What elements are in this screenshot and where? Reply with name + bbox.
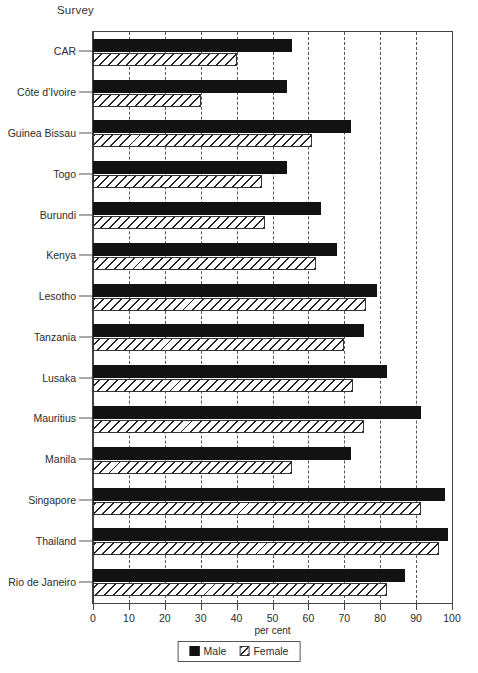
category-tick [79, 214, 92, 215]
category-label: Singapore [28, 494, 76, 506]
category-label: Lusaka [42, 372, 76, 384]
bar-male [93, 39, 292, 52]
x-tick-label: 30 [195, 612, 207, 624]
category-label: CAR [54, 45, 76, 57]
category-tick [79, 500, 92, 501]
bar-male [93, 528, 448, 541]
bar-male [93, 80, 287, 93]
bar-male [93, 406, 421, 419]
x-tick-label: 60 [303, 612, 315, 624]
category-tick [79, 540, 92, 541]
bar-group [93, 521, 452, 562]
bar-group [93, 236, 452, 277]
x-tick [129, 604, 130, 610]
bar-female [93, 502, 421, 515]
bar-group [93, 562, 452, 603]
x-tick [237, 604, 238, 610]
x-tick-label: 0 [90, 612, 96, 624]
bar-groups [93, 32, 452, 603]
bar-male [93, 447, 351, 460]
category-label: Guinea Bissau [8, 127, 76, 139]
bar-female [93, 379, 353, 392]
bar-male [93, 324, 364, 337]
bar-female [93, 583, 387, 596]
bar-male [93, 202, 321, 215]
x-tick [380, 604, 381, 610]
bar-female [93, 257, 316, 270]
category-tick [79, 173, 92, 174]
x-tick-label: 100 [443, 612, 461, 624]
category-tick [79, 581, 92, 582]
x-tick [273, 604, 274, 610]
x-tick [344, 604, 345, 610]
x-tick-label: 80 [374, 612, 386, 624]
x-axis: 0102030405060708090100 [92, 604, 453, 644]
category-label: Côte d’Ivoire [17, 86, 76, 98]
category-tick [79, 296, 92, 297]
bar-female [93, 216, 265, 229]
x-tick [452, 604, 453, 610]
legend-label-female: Female [253, 645, 288, 657]
legend-item-female: Female [239, 645, 288, 657]
category-label: Kenya [46, 249, 76, 261]
bar-group [93, 358, 452, 399]
survey-axis-title: Survey [57, 4, 94, 16]
bar-female [93, 175, 262, 188]
x-tick [416, 604, 417, 610]
bar-female [93, 94, 201, 107]
bar-group [93, 318, 452, 359]
bar-female [93, 338, 344, 351]
bar-female [93, 420, 364, 433]
x-tick-label: 40 [231, 612, 243, 624]
x-tick-label: 20 [159, 612, 171, 624]
bar-female [93, 298, 366, 311]
x-tick [93, 604, 94, 610]
bar-female [93, 542, 439, 555]
bar-male [93, 569, 405, 582]
category-tick [79, 377, 92, 378]
legend-item-male: Male [190, 645, 227, 657]
category-tick [79, 336, 92, 337]
bar-female [93, 134, 312, 147]
category-label: Rio de Janeiro [8, 576, 76, 588]
category-label: Lesotho [39, 290, 76, 302]
category-tick [79, 132, 92, 133]
bar-group [93, 73, 452, 114]
bar-male [93, 243, 337, 256]
bar-group [93, 154, 452, 195]
x-tick [201, 604, 202, 610]
gridline-100 [452, 32, 453, 603]
bar-group [93, 114, 452, 155]
bar-male [93, 120, 351, 133]
category-label: Burundi [40, 209, 76, 221]
category-axis: CARCôte d’IvoireGuinea BissauTogoBurundi… [0, 31, 92, 604]
solid-black-square-icon [190, 646, 200, 656]
category-tick [79, 51, 92, 52]
bar-group [93, 32, 452, 73]
category-label: Mauritius [33, 412, 76, 424]
bar-female [93, 461, 292, 474]
category-tick [79, 459, 92, 460]
x-tick-label: 50 [267, 612, 279, 624]
bar-group [93, 481, 452, 522]
bar-male [93, 365, 387, 378]
category-tick [79, 255, 92, 256]
category-tick [79, 92, 92, 93]
x-tick [165, 604, 166, 610]
bar-group [93, 195, 452, 236]
hatched-square-icon [239, 646, 249, 656]
x-tick-label: 70 [338, 612, 350, 624]
category-label: Togo [53, 168, 76, 180]
category-tick [79, 418, 92, 419]
x-axis-title: per cent [92, 625, 453, 636]
bar-group [93, 399, 452, 440]
legend-label-male: Male [204, 645, 227, 657]
chart-legend: Male Female [178, 641, 301, 662]
category-label: Manila [45, 453, 76, 465]
category-label: Thailand [36, 535, 76, 547]
chart-container: Survey CARCôte d’IvoireGuinea BissauTogo… [0, 0, 478, 673]
bar-male [93, 284, 377, 297]
bar-group [93, 440, 452, 481]
bar-male [93, 488, 445, 501]
category-label: Tanzania [34, 331, 76, 343]
